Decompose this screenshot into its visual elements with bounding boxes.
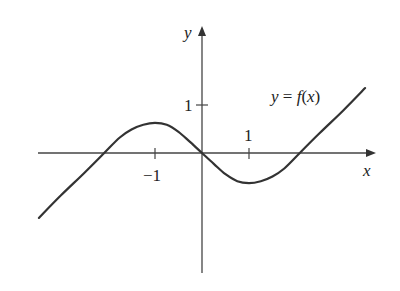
x-tick-label-1: 1 — [244, 126, 253, 145]
x-tick-label-neg1: −1 — [143, 166, 161, 185]
y-axis-arrow-icon — [198, 26, 206, 36]
x-axis-label: x — [362, 161, 371, 180]
labels: y x −1 1 1 y = f(x) — [143, 23, 371, 185]
function-graph: y x −1 1 1 y = f(x) — [0, 0, 400, 291]
curve-label: y = f(x) — [269, 87, 320, 106]
axes — [38, 26, 376, 273]
y-tick-label-1: 1 — [184, 96, 193, 115]
x-axis-arrow-icon — [366, 149, 376, 157]
y-axis-label: y — [182, 23, 192, 42]
